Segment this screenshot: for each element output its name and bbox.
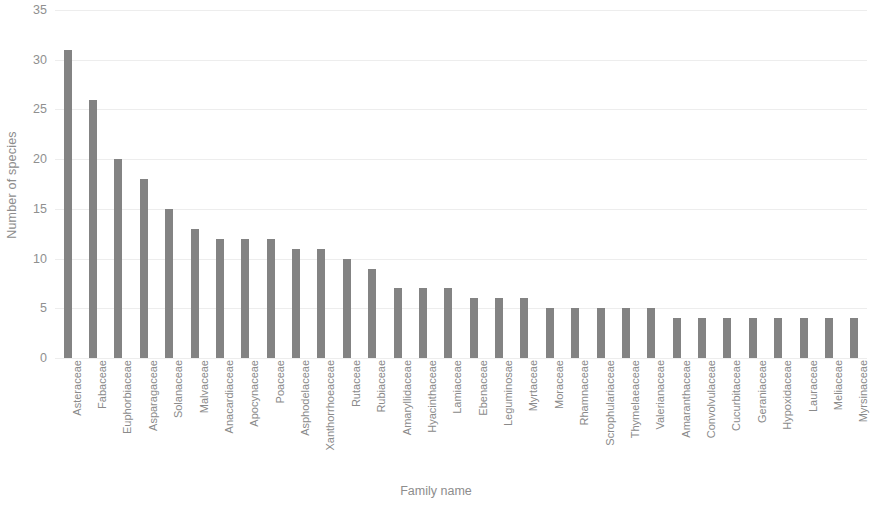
- y-axis-title-text: Number of species: [5, 131, 19, 239]
- x-axis-tick-label: Cucurbitaceae: [731, 360, 742, 480]
- bar: [140, 179, 148, 358]
- bar: [520, 298, 528, 358]
- x-axis-tick-label: Asteraceae: [72, 360, 83, 480]
- bar: [673, 318, 681, 358]
- y-axis-tick-label: 20: [33, 152, 47, 166]
- y-axis-tick-label: 5: [40, 301, 47, 315]
- x-axis-tick-label: Leguminosae: [503, 360, 514, 480]
- x-axis-tick-label: Asphodelaceae: [300, 360, 311, 480]
- bar: [850, 318, 858, 358]
- x-axis-tick-label: Lauraceae: [808, 360, 819, 480]
- bars-group: [55, 10, 867, 358]
- y-axis-title: Number of species: [0, 100, 24, 270]
- bar: [165, 209, 173, 358]
- x-axis-tick-label: Malvaceae: [199, 360, 210, 480]
- x-axis-tick-label: Euphorbiaceae: [122, 360, 133, 480]
- bar: [292, 249, 300, 358]
- x-axis-title: Family name: [0, 484, 872, 498]
- x-axis-tick-label: Ebenaceae: [478, 360, 489, 480]
- bar: [114, 159, 122, 358]
- x-axis-tick-label: Apocynaceae: [249, 360, 260, 480]
- bar-chart-figure: Number of species 05101520253035 Asterac…: [0, 0, 872, 513]
- x-axis-tick-label: Scrophulariaceae: [605, 360, 616, 480]
- bar: [241, 239, 249, 358]
- x-axis-tick-label: Valerianaceae: [655, 360, 666, 480]
- x-axis-tick-label: Rhamnaceae: [579, 360, 590, 480]
- gridline: [55, 358, 867, 359]
- x-axis-tick-label: Myrsinaceae: [858, 360, 869, 480]
- x-axis-tick-label: Moraceae: [554, 360, 565, 480]
- bar: [546, 308, 554, 358]
- bar: [622, 308, 630, 358]
- x-axis-tick-label: Geraniaceae: [757, 360, 768, 480]
- x-axis-tick-label: Hyacinthaceae: [427, 360, 438, 480]
- bar: [749, 318, 757, 358]
- x-axis-tick-label: Lamiaceae: [452, 360, 463, 480]
- bar: [444, 288, 452, 358]
- bar: [216, 239, 224, 358]
- bar: [368, 269, 376, 358]
- y-axis-tick-label: 25: [33, 102, 47, 116]
- y-axis-tick-label: 35: [33, 3, 47, 17]
- x-axis-tick-label: Convolvulaceae: [706, 360, 717, 480]
- x-axis-tick-label: Xanthorrhoeaceae: [325, 360, 336, 480]
- x-axis-tick-label: Solanaceae: [173, 360, 184, 480]
- bar: [419, 288, 427, 358]
- bar: [64, 50, 72, 358]
- plot-area: 05101520253035: [55, 10, 867, 358]
- bar: [571, 308, 579, 358]
- bar: [825, 318, 833, 358]
- x-axis-tick-label: Hypoxidaceae: [782, 360, 793, 480]
- x-axis-tick-label: Amaranthaceae: [681, 360, 692, 480]
- x-axis-tick-label: Meliaceae: [833, 360, 844, 480]
- bar: [597, 308, 605, 358]
- bar: [394, 288, 402, 358]
- x-axis-tick-label: Amaryllidaceae: [402, 360, 413, 480]
- y-axis-tick-label: 0: [40, 351, 47, 365]
- bar: [317, 249, 325, 358]
- bar: [723, 318, 731, 358]
- bar: [191, 229, 199, 358]
- x-axis-tick-label: Fabaceae: [97, 360, 108, 480]
- x-axis-tick-label: Thymelaeaceae: [630, 360, 641, 480]
- x-axis-tick-label: Myrtaceae: [528, 360, 539, 480]
- x-axis-tick-label: Asparagaceae: [148, 360, 159, 480]
- bar: [800, 318, 808, 358]
- y-axis-tick-label: 10: [33, 252, 47, 266]
- bar: [647, 308, 655, 358]
- bar: [89, 100, 97, 359]
- bar: [774, 318, 782, 358]
- bar: [698, 318, 706, 358]
- bar: [470, 298, 478, 358]
- x-axis-tick-label: Rubiaceae: [376, 360, 387, 480]
- x-axis-tick-label: Poaceae: [275, 360, 286, 480]
- bar: [267, 239, 275, 358]
- x-axis-tick-labels: AsteraceaeFabaceaeEuphorbiaceaeAsparagac…: [55, 360, 867, 480]
- y-axis-tick-label: 30: [33, 53, 47, 67]
- x-axis-tick-label: Rutaceae: [351, 360, 362, 480]
- x-axis-tick-label: Anacardiaceae: [224, 360, 235, 480]
- bar: [343, 259, 351, 358]
- bar: [495, 298, 503, 358]
- y-axis-tick-label: 15: [33, 202, 47, 216]
